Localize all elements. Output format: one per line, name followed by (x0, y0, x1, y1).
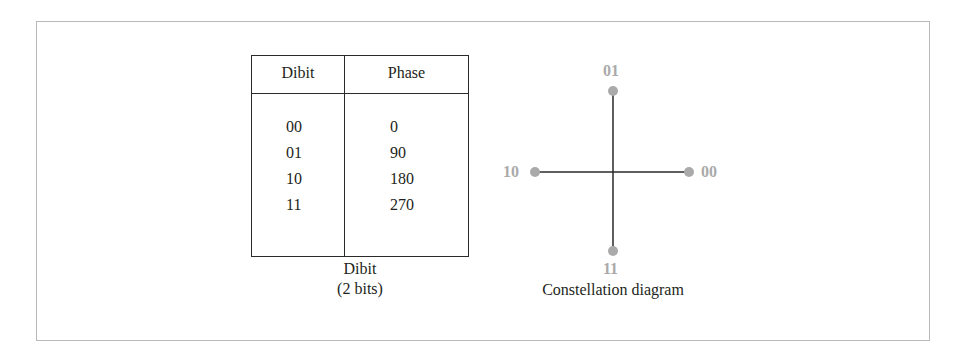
point-10-dot (530, 167, 540, 177)
point-label-11: 11 (603, 260, 618, 278)
constellation-caption: Constellation diagram (500, 280, 726, 300)
point-11-dot (608, 246, 618, 256)
point-label-10: 10 (503, 163, 519, 181)
point-01-dot (608, 86, 618, 96)
point-label-01: 01 (603, 62, 619, 80)
point-00-dot (684, 167, 694, 177)
constellation-diagram (0, 0, 958, 363)
point-label-00: 00 (701, 163, 717, 181)
